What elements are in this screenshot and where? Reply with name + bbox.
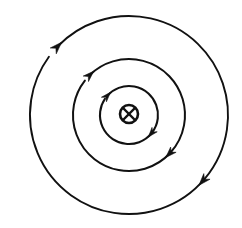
magnetic-field-diagram (0, 0, 242, 228)
figure-canvas (0, 0, 242, 228)
current-into-page-symbol (120, 105, 138, 123)
